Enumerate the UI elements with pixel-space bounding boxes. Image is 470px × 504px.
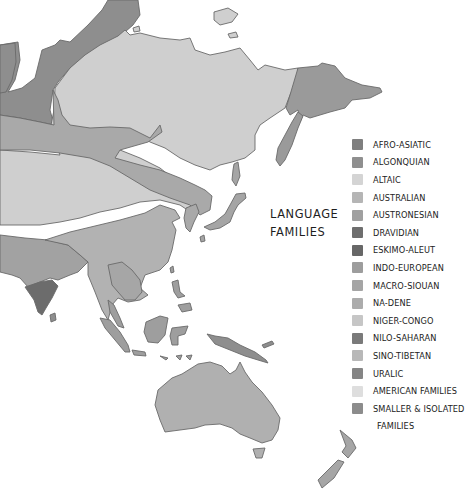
legend-label: Sino-Tibetan (373, 351, 431, 361)
region-australia (155, 362, 280, 443)
legend-label: Algonquian (373, 157, 430, 167)
legend-item-american-families: American Families (352, 382, 470, 400)
legend-swatch (352, 210, 363, 221)
legend-swatch (352, 245, 363, 256)
region-java (132, 350, 146, 356)
legend-item-algonquian: Algonquian (352, 154, 470, 172)
region-sulawesi (170, 326, 188, 345)
region-korea (184, 204, 199, 232)
legend-item-australian: Australian (352, 189, 470, 207)
region-lesser-sunda (160, 355, 192, 360)
title-line-2: Families (270, 223, 338, 241)
legend-swatch (352, 386, 363, 397)
legend-label: Indo-European (373, 263, 444, 273)
region-sumatra (100, 318, 130, 352)
region-new-guinea (207, 334, 268, 363)
region-scandinavia (0, 43, 16, 93)
legend-item-dravidian: Dravidian (352, 224, 470, 242)
legend-swatch (352, 368, 363, 379)
legend-item-indo-european: Indo-European (352, 259, 470, 277)
legend-label: Smaller & Isolated (373, 404, 465, 414)
legend-swatch (352, 280, 363, 291)
legend-item-niger-congo: Niger-Congo (352, 312, 470, 330)
legend-swatch (352, 333, 363, 344)
region-arctic-island-2 (228, 32, 238, 38)
region-new-britain (262, 341, 274, 348)
legend-swatch (352, 227, 363, 238)
legend-label: American Families (373, 386, 457, 396)
legend-swatch (352, 174, 363, 185)
region-new-zealand (318, 430, 356, 488)
title-line-1: Language (270, 205, 338, 223)
legend-swatch (352, 192, 363, 203)
legend-item-afro-asiatic: Afro-Asiatic (352, 136, 470, 154)
legend-label: Dravidian (373, 228, 419, 238)
legend-label: Macro-Siouan (373, 281, 440, 291)
legend-swatch (352, 157, 363, 168)
legend-item-smaller-isolated: Smaller & Isolated (352, 400, 470, 418)
legend-item-continuation: Families (352, 418, 470, 434)
legend-label: Niger-Congo (373, 316, 434, 326)
legend-label: Na-Dene (373, 298, 411, 308)
region-tasmania (253, 448, 265, 458)
region-philippines (172, 280, 192, 312)
region-kamchatka (276, 112, 303, 166)
legend-swatch (352, 350, 363, 361)
region-sri-lanka (50, 313, 56, 322)
legend-label: Eskimo-Aleut (373, 245, 435, 255)
legend-item-uralic: Uralic (352, 365, 470, 383)
legend-item-na-dene: Na-Dene (352, 294, 470, 312)
legend-label-continuation: Families (377, 421, 414, 431)
legend-item-macro-siouan: Macro-Siouan (352, 277, 470, 295)
legend-label: Altaic (373, 175, 401, 185)
region-arctic-island-1 (214, 8, 238, 25)
map-title: Language Families (270, 205, 338, 241)
legend-item-sino-tibetan: Sino-Tibetan (352, 347, 470, 365)
legend-label: Nilo-Saharan (373, 333, 436, 343)
legend-label: Afro-Asiatic (373, 140, 431, 150)
region-arctic-island-3 (133, 26, 140, 32)
legend-label: Austronesian (373, 210, 439, 220)
region-chukotko (286, 63, 382, 122)
region-borneo (144, 316, 168, 343)
legend-item-eskimo-aleut: Eskimo-Aleut (352, 242, 470, 260)
region-taiwan (170, 266, 174, 273)
legend-swatch (352, 403, 363, 414)
legend-swatch (352, 139, 363, 150)
legend-swatch (352, 298, 363, 309)
region-dravidian (25, 280, 58, 315)
legend-item-altaic: Altaic (352, 171, 470, 189)
legend-label: Uralic (373, 369, 403, 379)
legend-item-austronesian: Austronesian (352, 206, 470, 224)
legend-swatch (352, 262, 363, 273)
region-kyushu (200, 235, 205, 242)
legend-item-nilo-saharan: Nilo-Saharan (352, 330, 470, 348)
legend-swatch (352, 315, 363, 326)
legend: Afro-Asiatic Algonquian Altaic Australia… (352, 136, 470, 434)
region-hokkaido (232, 162, 240, 186)
legend-label: Australian (373, 193, 425, 203)
